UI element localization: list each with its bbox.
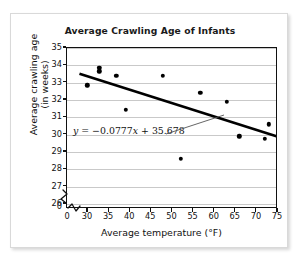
y-axis-tick-label: 33	[42, 77, 62, 87]
y-axis-tick-label: 27	[42, 181, 62, 191]
x-axis-tick-mark	[276, 208, 277, 212]
y-axis-tick-label: 29	[42, 146, 62, 156]
x-axis-tick-mark	[108, 208, 109, 212]
y-axis-tick-label: 34	[42, 59, 62, 69]
x-axis-tick-mark	[150, 208, 151, 212]
figure-card: Average Crawling Age of Infants Average …	[10, 13, 288, 248]
x-axis-tick-label: 60	[203, 211, 225, 221]
x-axis-tick-label: 75	[266, 211, 288, 221]
chart-title: Average Crawling Age of Infants	[11, 25, 289, 36]
x-axis-tick-label: 30	[76, 211, 98, 221]
y-axis-tick-label: 35	[42, 42, 62, 52]
x-axis-tick-mark	[255, 208, 256, 212]
x-axis-tick-label: 40	[118, 211, 140, 221]
y-axis-title-line1: Average crawling age	[29, 10, 40, 160]
equation-leader-line	[166, 114, 226, 136]
x-axis-tick-mark	[171, 208, 172, 212]
x-axis-tick-label: 50	[160, 211, 182, 221]
x-axis-tick-label: 70	[245, 211, 267, 221]
x-axis-tick-label: 65	[224, 211, 246, 221]
x-axis-tick-mark	[129, 208, 130, 212]
x-axis-tick-mark	[234, 208, 235, 212]
y-axis-tick-label: 31	[42, 111, 62, 121]
y-axis-tick-label: 28	[42, 163, 62, 173]
x-axis-tick-label: 35	[97, 211, 119, 221]
x-axis-tick-label: 45	[139, 211, 161, 221]
x-axis-tick-label: 0	[56, 211, 78, 221]
x-axis-title: Average temperature (°F)	[46, 227, 277, 238]
x-axis-tick-mark	[192, 208, 193, 212]
y-axis-tick-label: 32	[42, 94, 62, 104]
x-axis-tick-mark	[213, 208, 214, 212]
y-axis-tick-label: 30	[42, 129, 62, 139]
x-axis-tick-label: 55	[182, 211, 204, 221]
x-axis-tick-mark	[86, 208, 87, 212]
y-axis-tick-label: 26	[42, 198, 62, 208]
equation-slope-part: = −0.0777	[78, 125, 132, 136]
